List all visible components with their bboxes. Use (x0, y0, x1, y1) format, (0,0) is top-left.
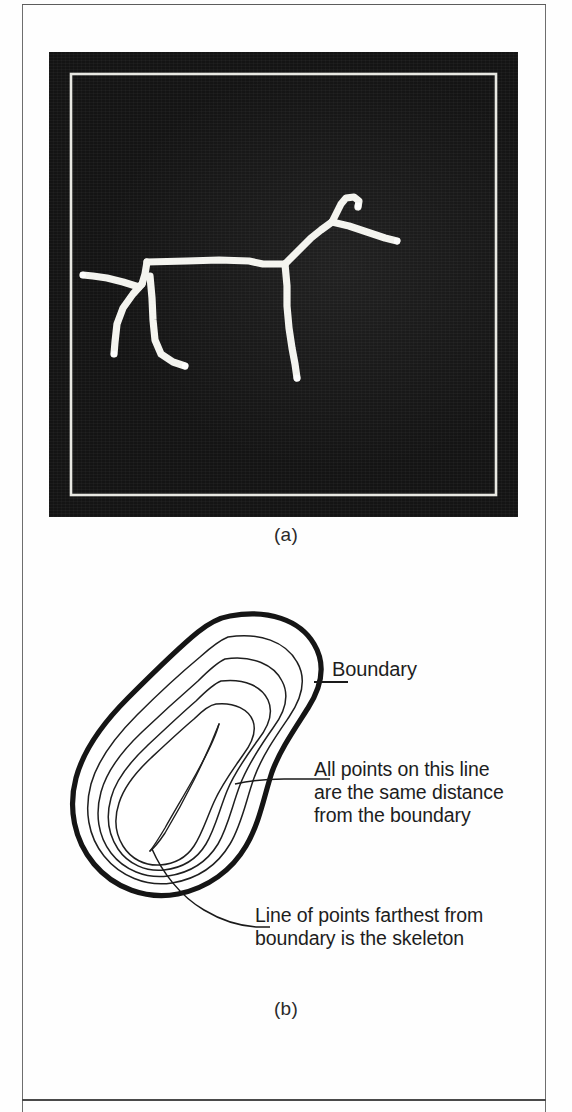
page-border-bottom (22, 1099, 546, 1101)
caption-a: (a) (0, 524, 572, 546)
scanned-page: (a) Boundary All points on this (0, 0, 572, 1112)
label-equidistant: All points on this line are the same dis… (314, 758, 504, 827)
blob-boundary-path (73, 614, 322, 896)
skeleton-photo-graphic (49, 52, 518, 517)
figure-panel-a (49, 52, 518, 517)
caption-b: (b) (0, 998, 572, 1020)
label-skeleton: Line of points farthest from boundary is… (255, 904, 483, 950)
label-boundary: Boundary (332, 658, 417, 681)
figure-panel-b: Boundary All points on this line are the… (22, 576, 545, 996)
page-border-top (22, 4, 546, 5)
animal-skeleton-strokes (83, 197, 397, 378)
page-border-right (545, 4, 546, 1112)
